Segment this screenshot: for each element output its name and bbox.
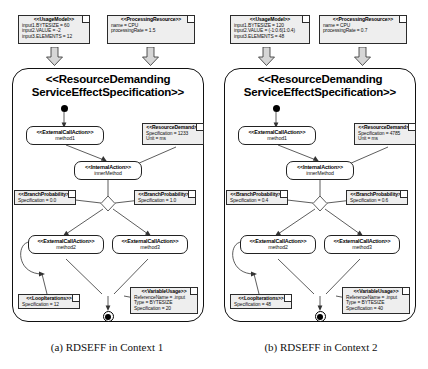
start-node-icon xyxy=(61,105,68,112)
external-call-2-name: method2 xyxy=(56,245,76,251)
loop-iterations-stereotype: <<LoopIterations>> xyxy=(22,296,76,302)
branch-probability-left-note: <<BranchProbability>> Specification = 0.… xyxy=(226,190,288,205)
internal-action-innermethod[interactable]: <<InternalAction>> innerMethod xyxy=(74,161,142,180)
note-fold-icon xyxy=(188,191,195,198)
external-call-action-method3[interactable]: <<ExternalCallAction>> method3 xyxy=(324,235,400,254)
resource-demand-note: <<ResourceDemand>> Specification = 1233 … xyxy=(142,123,204,145)
loop-iterations-stereotype: <<LoopIterations>> xyxy=(234,296,288,302)
branch-probability-right-note: <<BranchProbability>> Specification = 0.… xyxy=(346,190,408,205)
note-fold-icon xyxy=(400,191,407,198)
external-call-3-name: method3 xyxy=(352,245,372,251)
external-call-action-method3[interactable]: <<ExternalCallAction>> method3 xyxy=(112,235,188,254)
external-call-2-name: method2 xyxy=(268,245,288,251)
branch-probability-right-stereotype: <<BranchProbability>> xyxy=(350,192,404,198)
resource-demand-stereotype: <<ResourceDemand>> xyxy=(358,125,412,131)
note-fold-icon xyxy=(280,191,287,198)
branch-probability-left-line-1: Specification = 0.4 xyxy=(230,198,284,203)
external-call-3-name: method3 xyxy=(140,245,160,251)
branch-probability-left-note: <<BranchProbability>> Specification = 0.… xyxy=(14,190,76,205)
branch-probability-left-stereotype: <<BranchProbability>> xyxy=(230,192,284,198)
caption-left: (a) RDSEFF in Context 1 xyxy=(0,341,214,353)
variable-usage-note: <<VariableUsage>> ReferenceName = .input… xyxy=(342,287,410,314)
loop-iterations-line-1: Specification = 48 xyxy=(234,302,288,307)
external-call-1-name: method1 xyxy=(267,136,287,142)
resource-demand-stereotype: <<ResourceDemand>> xyxy=(146,125,200,131)
external-call-action-method2[interactable]: <<ExternalCallAction>> method2 xyxy=(28,235,104,254)
internal-action-name: innerMethod xyxy=(94,171,122,177)
external-call-action-method2[interactable]: <<ExternalCallAction>> method2 xyxy=(240,235,316,254)
note-fold-icon xyxy=(284,295,291,302)
stop-node-icon xyxy=(315,311,326,322)
note-fold-icon xyxy=(72,295,79,302)
branch-probability-right-note: <<BranchProbability>> Specification = 1.… xyxy=(134,190,196,205)
stop-node-icon xyxy=(103,311,114,322)
loop-iterations-line-1: Specification = 12 xyxy=(22,302,76,307)
rdseff-comparison-figure: <<UsageModel>> input1.BYTESIZE = 60 inpu… xyxy=(0,0,428,369)
external-call-action-method1[interactable]: <<ExternalCallAction>> method1 xyxy=(26,126,104,145)
resource-demand-line-2: Unit = ms xyxy=(146,136,200,141)
branch-probability-left-line-1: Specification = 0.0 xyxy=(18,198,72,203)
internal-action-innermethod[interactable]: <<InternalAction>> innerMethod xyxy=(286,161,354,180)
variable-usage-stereotype: <<VariableUsage>> xyxy=(346,289,406,295)
branch-probability-right-line-1: Specification = 1.0 xyxy=(138,198,192,203)
note-fold-icon xyxy=(190,288,197,295)
note-fold-icon xyxy=(408,124,415,131)
diagram-panel-context-2: <<UsageModel>> input1.BYTESIZE = 120 inp… xyxy=(216,6,424,330)
variable-usage-line-3: Specification = 20 xyxy=(134,306,194,311)
caption-right: (b) RDSEFF in Context 2 xyxy=(214,341,428,353)
loop-iterations-note: <<LoopIterations>> Specification = 48 xyxy=(230,294,292,309)
variable-usage-note: <<VariableUsage>> ReferenceName = .input… xyxy=(130,287,198,314)
internal-action-name: innerMethod xyxy=(306,171,334,177)
external-call-1-name: method1 xyxy=(55,136,75,142)
note-fold-icon xyxy=(196,124,203,131)
note-fold-icon xyxy=(68,191,75,198)
branch-probability-left-stereotype: <<BranchProbability>> xyxy=(18,192,72,198)
start-node-icon xyxy=(273,105,280,112)
variable-usage-stereotype: <<VariableUsage>> xyxy=(134,289,194,295)
branch-probability-right-line-1: Specification = 0.6 xyxy=(350,198,404,203)
note-fold-icon xyxy=(402,288,409,295)
variable-usage-line-3: Specification = 40 xyxy=(346,306,406,311)
external-call-action-method1[interactable]: <<ExternalCallAction>> method1 xyxy=(238,126,316,145)
resource-demand-line-2: Unit = ms xyxy=(358,136,412,141)
loop-iterations-note: <<LoopIterations>> Specification = 12 xyxy=(18,294,80,309)
diagram-panel-context-1: <<UsageModel>> input1.BYTESIZE = 60 inpu… xyxy=(4,6,212,330)
branch-probability-right-stereotype: <<BranchProbability>> xyxy=(138,192,192,198)
resource-demand-note: <<ResourceDemand>> Specification = 4785 … xyxy=(354,123,416,145)
